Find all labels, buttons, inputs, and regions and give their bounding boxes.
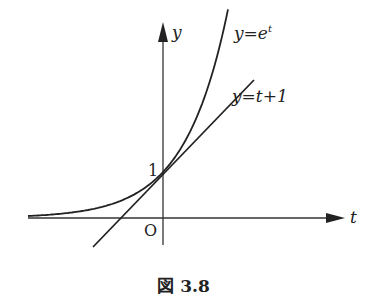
t-axis-arrow-icon bbox=[326, 213, 345, 223]
y-intercept-label: 1 bbox=[148, 163, 158, 179]
tangent-line-curve bbox=[93, 80, 254, 247]
exponential-curve bbox=[28, 9, 228, 216]
t-axis-label: t bbox=[350, 209, 357, 226]
exponential-curve-label: y=et bbox=[234, 24, 272, 42]
diagram-canvas bbox=[0, 0, 367, 301]
y-axis-arrow-icon bbox=[158, 22, 168, 42]
tangent-line-label: y=t+1 bbox=[232, 88, 288, 105]
y-axis-label: y bbox=[172, 24, 182, 41]
figure-caption: 図 3.8 bbox=[0, 272, 367, 297]
origin-label: O bbox=[144, 223, 157, 239]
